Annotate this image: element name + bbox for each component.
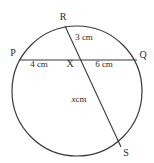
chord-rs (65, 26, 121, 147)
point-label-p: P (10, 48, 16, 58)
length-label-rx: 3 cm (75, 33, 93, 42)
point-label-q: Q (139, 50, 146, 60)
geometry-figure: R P Q X S 3 cm 4 cm 6 cm xcm (0, 0, 154, 163)
point-label-r: R (60, 12, 67, 22)
circle-outline (12, 26, 142, 156)
length-label-xs: xcm (72, 95, 87, 104)
length-unit-cm: cm (76, 94, 87, 104)
point-label-x: X (66, 59, 73, 69)
diagram-canvas (0, 0, 154, 163)
point-label-s: S (123, 148, 129, 158)
length-label-px: 4 cm (30, 60, 48, 69)
length-label-xq: 6 cm (95, 60, 113, 69)
